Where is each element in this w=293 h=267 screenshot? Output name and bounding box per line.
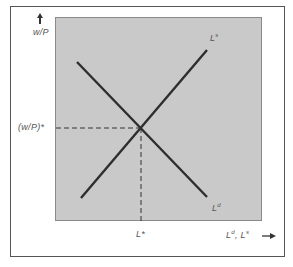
x-axis-arrow-icon — [270, 233, 276, 239]
demand-curve-label: Ld — [212, 202, 221, 213]
supply-curve-label-sup: s — [215, 32, 218, 38]
labor-demand-curve — [77, 62, 207, 197]
equilibrium-labor-label: L* — [136, 229, 145, 239]
x-axis-label: Ld, Ls — [226, 229, 249, 240]
diagram-svg — [0, 0, 293, 267]
x-axis-label-ls-sup: s — [246, 229, 249, 235]
supply-curve-label: Ls — [210, 32, 219, 43]
equilibrium-wage-label: (w/P)* — [18, 122, 44, 132]
demand-curve-label-sup: d — [217, 202, 221, 208]
y-axis-label: w/P — [33, 27, 49, 37]
y-axis-arrow-icon — [39, 13, 40, 23]
